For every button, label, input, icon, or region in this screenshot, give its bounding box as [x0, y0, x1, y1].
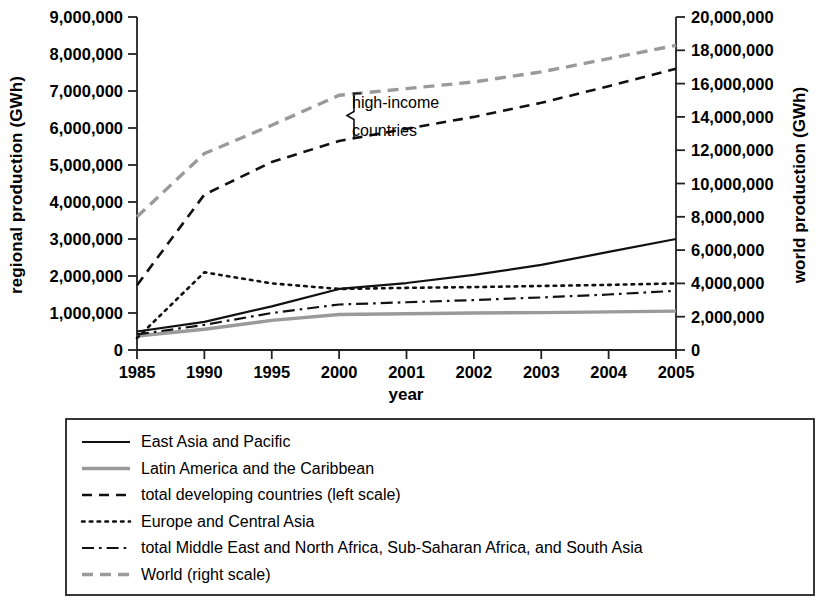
legend-item-label: total developing countries (left scale) [141, 486, 401, 503]
left-tick-label: 6,000,000 [50, 119, 123, 137]
annotation-line-1: high-income [352, 94, 439, 111]
left-tick-label: 5,000,000 [50, 156, 123, 174]
x-tick-label: 2001 [388, 363, 425, 381]
x-tick-label: 1990 [186, 363, 223, 381]
x-axis-ticks: 198519901995200020012002200320042005 [119, 350, 695, 381]
legend-item-label: total Middle East and North Africa, Sub-… [141, 539, 643, 556]
left-tick-label: 4,000,000 [50, 193, 123, 211]
chart-figure: regional production (GWh) world producti… [0, 0, 820, 601]
right-tick-label: 4,000,000 [691, 274, 764, 292]
right-axis-title-text: world production (GWh) [790, 87, 809, 285]
left-tick-label: 9,000,000 [50, 8, 123, 26]
x-tick-label: 1985 [119, 363, 156, 381]
legend-item-label: Latin America and the Caribbean [141, 460, 374, 477]
left-axis-title-text: regional production (GWh) [7, 76, 26, 294]
right-tick-label: 14,000,000 [691, 108, 774, 126]
right-tick-label: 6,000,000 [691, 241, 764, 259]
right-tick-label: 10,000,000 [691, 175, 774, 193]
annotation-line-2: countries [352, 122, 417, 139]
left-tick-label: 2,000,000 [50, 267, 123, 285]
x-tick-label: 2002 [456, 363, 493, 381]
x-tick-label: 1995 [253, 363, 290, 381]
right-tick-label: 20,000,000 [691, 8, 774, 26]
left-axis-title: regional production (GWh) [7, 76, 26, 294]
left-tick-label: 3,000,000 [50, 230, 123, 248]
left-tick-label: 8,000,000 [50, 45, 123, 63]
right-tick-label: 16,000,000 [691, 75, 774, 93]
right-tick-label: 0 [691, 341, 700, 359]
legend-item[interactable]: total Middle East and North Africa, Sub-… [82, 539, 643, 556]
left-tick-label: 0 [114, 341, 123, 359]
x-tick-label: 2005 [658, 363, 695, 381]
left-tick-label: 1,000,000 [50, 304, 123, 322]
right-axis-title: world production (GWh) [790, 87, 809, 285]
right-tick-label: 12,000,000 [691, 141, 774, 159]
legend-item-label: Europe and Central Asia [141, 513, 315, 530]
legend-item-label: World (right scale) [141, 566, 271, 583]
right-tick-label: 2,000,000 [691, 308, 764, 326]
x-tick-label: 2004 [590, 363, 628, 381]
left-tick-label: 7,000,000 [50, 82, 123, 100]
right-tick-label: 18,000,000 [691, 41, 774, 59]
legend-item-label: East Asia and Pacific [141, 433, 290, 450]
right-tick-label: 8,000,000 [691, 208, 764, 226]
x-tick-label: 2000 [321, 363, 358, 381]
x-tick-label: 2003 [523, 363, 560, 381]
x-axis-title: year [389, 385, 424, 404]
